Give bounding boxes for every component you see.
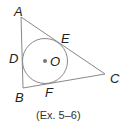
label-e: E [61, 31, 70, 46]
triangle-abc [21, 17, 105, 88]
label-f: F [45, 85, 54, 100]
label-b: B [15, 90, 24, 105]
incircle-diagram: A E D O C B F (Ex. 5–6) [0, 0, 127, 125]
caption: (Ex. 5–6) [36, 109, 81, 121]
center-dot [43, 59, 47, 63]
label-c: C [110, 71, 120, 86]
label-a: A [13, 4, 23, 19]
label-o: O [50, 54, 60, 69]
label-d: D [9, 51, 18, 66]
